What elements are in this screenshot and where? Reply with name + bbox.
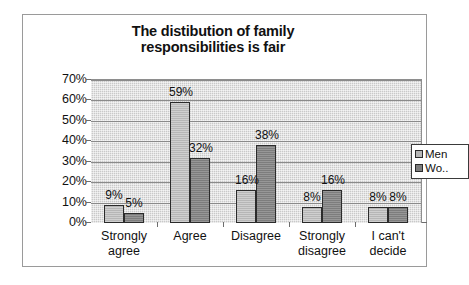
x-axis-category-label-line: agree [88,244,160,259]
y-axis-tick-mark [86,79,91,80]
x-axis-category-label: Stronglydisagree [286,229,358,259]
bar-value-label: 59% [169,86,191,98]
bar-men [236,190,256,223]
chart-title-line-2: responsibilities is fair [63,39,363,55]
y-axis-tick-label: 60% [43,93,87,105]
bar-value-label: 8% [387,191,409,203]
bar-women [124,213,144,223]
bar-value-label: 9% [103,189,125,201]
y-axis-tick-label: 10% [43,196,87,208]
x-axis-category-label: I can'tdecide [352,229,424,259]
y-axis-tick-mark [86,181,91,182]
bar-women [190,158,210,223]
x-axis-tick-mark [157,222,158,227]
bar-women [388,207,408,223]
x-axis-tick-mark [289,222,290,227]
x-axis-category-label: Disagree [220,229,292,244]
bar-men [104,205,124,223]
chart-frame: The distibution of family responsibiliti… [22,14,427,267]
legend-item-women: Wo.. [415,161,466,175]
legend-label-men: Men [425,148,447,161]
chart-title-line-1: The distibution of family [63,23,363,39]
x-axis-category-label-line: Disagree [220,229,292,244]
bar-value-label: 5% [123,197,145,209]
y-axis-tick-mark [86,222,91,223]
y-axis-tick-mark [86,161,91,162]
x-axis-category-label-line: decide [352,244,424,259]
bar-value-label: 8% [301,191,323,203]
y-axis-tick-label: 20% [43,175,87,187]
legend-label-women: Wo.. [425,162,448,175]
x-axis-category-label-line: Strongly [286,229,358,244]
y-axis-tick-label: 70% [43,73,87,85]
x-axis-category-label-line: Strongly [88,229,160,244]
bar-women [322,190,342,223]
bar-women [256,145,276,223]
y-axis-tick-label: 40% [43,134,87,146]
bar-value-label: 16% [321,174,343,186]
y-axis-tick-mark [86,140,91,141]
bar-value-label: 8% [367,191,389,203]
bar-value-label: 16% [235,174,257,186]
x-axis-tick-mark [223,222,224,227]
y-axis: 70%60%50%40%30%20%10%0% [39,15,87,266]
x-axis-category-label-line: I can't [352,229,424,244]
gridline [91,121,421,122]
bar-men [302,207,322,223]
gridline [91,80,421,81]
chart-legend: Men Wo.. [411,144,469,179]
bar-value-label: 38% [255,129,277,141]
bar-value-label: 32% [189,142,211,154]
y-axis-tick-label: 30% [43,155,87,167]
y-axis-tick-mark [86,120,91,121]
gridline [91,100,421,101]
y-axis-tick-mark [86,202,91,203]
chart-title: The distibution of family responsibiliti… [63,23,363,55]
x-axis-category-label-line: Agree [154,229,226,244]
x-axis-tick-mark [355,222,356,227]
x-axis-category-label: Stronglyagree [88,229,160,259]
x-axis-category-label: Agree [154,229,226,244]
legend-item-men: Men [415,147,466,161]
y-axis-tick-label: 50% [43,114,87,126]
x-axis-category-label-line: disagree [286,244,358,259]
y-axis-tick-label: 0% [43,216,87,228]
y-axis-tick-mark [86,99,91,100]
legend-swatch-men-icon [415,150,423,158]
bar-men [368,207,388,223]
legend-swatch-women-icon [415,164,423,172]
bar-men [170,102,190,223]
